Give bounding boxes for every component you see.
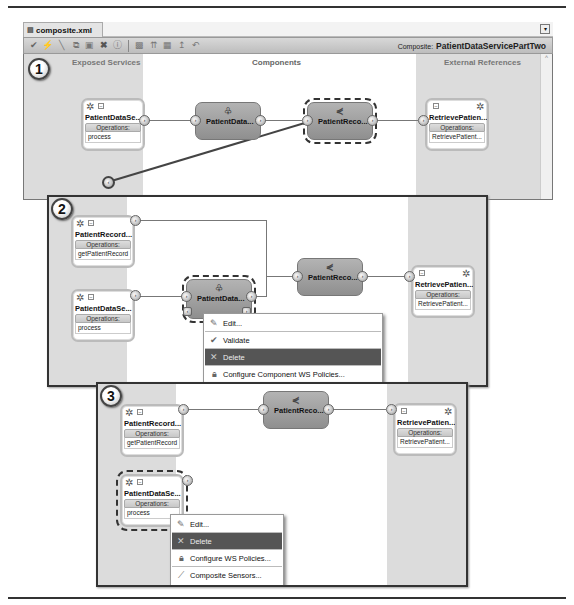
pin-icon[interactable]: ↥ [176, 40, 187, 51]
validate-icon[interactable]: ✔ [28, 40, 39, 51]
operation-item[interactable]: process [75, 323, 131, 334]
component-in-port-icon[interactable]: › [258, 404, 269, 415]
service-card-patientrecord[interactable]: ✲– PatientRecord... Operations: getPatie… [120, 404, 184, 457]
reference-port-icon[interactable]: › [418, 115, 429, 126]
step-3-panel: 3 ✲– PatientRecord... Operations: getPat… [96, 382, 468, 587]
wire [138, 296, 183, 297]
delete-icon[interactable]: ✖ [98, 40, 109, 51]
collapse-icon[interactable]: – [419, 270, 425, 276]
operation-item[interactable]: process [85, 132, 141, 143]
component-in-port-icon[interactable]: › [292, 271, 303, 282]
layout-icon[interactable]: ▩ [134, 40, 145, 51]
lightning-icon[interactable]: ⚡ [42, 40, 53, 51]
component-patientrecord[interactable]: ⋞ PatientReco... [307, 102, 373, 140]
undo-icon[interactable]: ↶ [190, 40, 201, 51]
collapse-icon[interactable]: – [401, 408, 407, 414]
menu-item-validate[interactable]: ✔Validate [205, 332, 381, 349]
service-port-icon[interactable]: › [178, 404, 189, 415]
composite-canvas[interactable]: ˄ Exposed Services Components External R… [23, 54, 553, 200]
step-3-badge: 3 [100, 385, 122, 407]
component-context-menu: ✎Edit... ✔Validate ✕Delete 🔒︎Configure C… [203, 313, 383, 385]
wire-icon[interactable]: ╲ [56, 40, 67, 51]
service-gear-icon: ✲ [76, 218, 84, 229]
service-gear-icon: ✲ [86, 101, 94, 112]
service-card-patientrecord[interactable]: ✲– PatientRecord... Operations: getPatie… [71, 215, 135, 268]
collapse-icon[interactable]: – [88, 220, 94, 226]
menu-item-delete[interactable]: ✕Delete [205, 349, 381, 366]
mediator-icon: ♧ [196, 105, 260, 117]
component-name: PatientReco... [298, 273, 362, 282]
operation-item[interactable]: RetrievePatient... [397, 437, 453, 448]
lock-icon: 🔒︎ [209, 369, 219, 380]
menu-item-edit[interactable]: ✎Edit... [205, 315, 381, 332]
operations-label: Operations: [415, 290, 471, 299]
component-out-port-icon[interactable]: › [246, 291, 257, 302]
reference-card-retrievepatient[interactable]: –✲ RetrievePatien... Operations: Retriev… [425, 98, 489, 151]
service-port-icon[interactable]: › [139, 115, 150, 126]
reference-card-retrievepatient[interactable]: –✲ RetrievePatien... Operations: Retriev… [411, 265, 475, 318]
component-left-port-icon[interactable]: ‹ [183, 307, 192, 316]
menu-item-edit[interactable]: ✎Edit... [172, 516, 282, 533]
operation-item[interactable]: RetrievePatient... [429, 132, 485, 143]
menu-item-delete[interactable]: ✕Delete [172, 533, 282, 550]
service-card-patientdataservice[interactable]: ✲– PatientDataSe... Operations: process [71, 289, 135, 342]
reference-port-icon[interactable]: › [386, 404, 397, 415]
collapse-icon[interactable]: – [433, 103, 439, 109]
component-patientrecord[interactable]: ⋞ PatientReco... [263, 391, 329, 429]
menu-item-configure-ws-policies[interactable]: 🔒︎Configure WS Policies... [172, 550, 282, 567]
grid-icon[interactable]: ▦ [162, 40, 173, 51]
menu-item-composite-sensors[interactable]: ⟋Composite Sensors... [172, 567, 282, 584]
sensor-icon: ⟋ [176, 570, 186, 581]
menu-item-configure-component-ws-policies[interactable]: 🔒︎Configure Component WS Policies... [205, 366, 381, 383]
collapse-icon[interactable]: – [98, 103, 104, 109]
component-patientdata[interactable]: ♧ PatientData... [195, 102, 261, 140]
component-in-port-icon[interactable]: › [181, 291, 192, 302]
xml-file-icon: ▤ [27, 26, 34, 34]
copy-icon[interactable]: ⧉ [70, 40, 81, 51]
tab-strip: ▾ [103, 22, 553, 37]
collapse-icon[interactable]: – [88, 294, 94, 300]
operations-label: Operations: [397, 428, 453, 437]
reference-gear-icon: ✲ [462, 268, 470, 279]
wire-drag-end-icon[interactable]: ‹ [102, 176, 115, 189]
component-patientrecord[interactable]: ⋞ PatientReco... [297, 258, 363, 296]
operations-label: Operations: [75, 314, 131, 323]
composite-name-label: Composite:PatientDataServicePartTwo [398, 41, 546, 51]
reference-port-icon[interactable]: › [404, 271, 415, 282]
composite-prefix: Composite: [398, 43, 433, 50]
tab-composite-xml[interactable]: ▤ composite.xml [23, 22, 103, 37]
menu-item-label: Delete [223, 353, 245, 362]
menu-item-label: Configure WS Policies... [190, 554, 271, 563]
service-port-icon[interactable]: › [130, 290, 141, 301]
component-out-port-icon[interactable]: › [367, 115, 378, 126]
paste-icon[interactable]: ▣ [84, 40, 95, 51]
component-out-port-icon[interactable]: › [255, 115, 266, 126]
service-port-icon[interactable]: › [130, 215, 141, 226]
tab-list-dropdown-icon[interactable]: ▾ [540, 24, 550, 34]
mediator-icon: ♧ [187, 282, 251, 294]
toolbar-separator [128, 40, 129, 52]
service-port-icon[interactable]: › [182, 475, 193, 486]
wire [328, 409, 386, 410]
component-out-port-icon[interactable]: › [357, 271, 368, 282]
operation-item[interactable]: RetrievePatient... [415, 299, 471, 310]
info-icon[interactable]: ⓘ [112, 40, 123, 51]
checkmark-icon: ✔ [209, 335, 219, 345]
collapse-icon[interactable]: – [137, 409, 143, 415]
component-out-port-icon[interactable]: › [323, 404, 334, 415]
component-in-port-icon[interactable]: › [190, 115, 201, 126]
composite-name: PatientDataServicePartTwo [436, 41, 546, 51]
reference-gear-icon: ✲ [476, 101, 484, 112]
step-2-badge: 2 [51, 198, 73, 220]
editor-window: ▤ composite.xml ▾ ✔ ⚡ ╲ ⧉ ▣ ✖ ⓘ ▩ ⇈ ▦ ↥ … [23, 22, 553, 200]
operation-item[interactable]: getPatientRecord [124, 438, 180, 449]
reference-card-retrievepatient[interactable]: –✲ RetrievePatien... Operations: Retriev… [393, 403, 457, 456]
operation-item[interactable]: getPatientRecord [75, 249, 131, 260]
align-icon[interactable]: ⇈ [148, 40, 159, 51]
component-in-port-icon[interactable]: › [302, 115, 313, 126]
service-name: PatientDataSe... [83, 113, 143, 122]
service-card-patientdataservice[interactable]: ✲– PatientDataSe... Operations: process [81, 98, 145, 151]
component-name: PatientReco... [264, 406, 328, 415]
collapse-icon[interactable]: – [137, 479, 143, 485]
service-name: PatientDataSe... [122, 489, 182, 498]
